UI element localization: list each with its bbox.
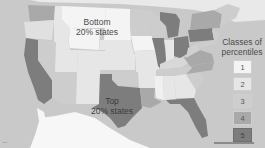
bottom-label-line2: 20% states: [68, 27, 126, 37]
us-states-map: [0, 0, 265, 148]
attribution-bar: [214, 142, 254, 144]
legend-class-3: 3: [233, 94, 252, 108]
legend-title-line2: percentiles: [218, 47, 265, 57]
state-or: [24, 20, 54, 40]
state-al: [163, 76, 176, 100]
legend-class-5: 5: [233, 128, 252, 142]
state-co: [77, 50, 105, 72]
legend-class-2: 2: [233, 77, 252, 91]
state-ks: [105, 54, 135, 70]
top-label-line2: 20% states: [83, 106, 141, 116]
bottom-20-label: Bottom 20% states: [68, 17, 126, 37]
state-pa: [188, 28, 214, 42]
top-20-label: Top 20% states: [83, 96, 141, 116]
legend-class-4: 4: [233, 111, 252, 125]
state-ms: [155, 76, 164, 100]
legend-class-1: 1: [233, 60, 252, 74]
state-ar: [138, 72, 156, 88]
bottom-label-line1: Bottom: [68, 17, 126, 27]
legend-title: Classes of percentiles: [218, 37, 265, 57]
legend-title-line1: Classes of: [218, 37, 265, 47]
choropleth-map: Bottom 20% states Top 20% states Classes…: [0, 0, 265, 148]
state-az: [52, 72, 77, 104]
legend: 1 2 3 4 5: [233, 60, 253, 145]
footer-mark: ▪▪ ▪: [3, 140, 7, 144]
state-wa: [28, 5, 55, 22]
state-ia: [131, 36, 155, 51]
top-label-line1: Top: [83, 96, 141, 106]
